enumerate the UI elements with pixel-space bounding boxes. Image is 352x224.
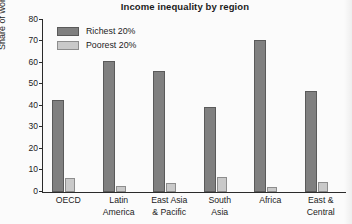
legend-label-richest: Richest 20%: [86, 27, 135, 36]
y-axis-tick-label: 40: [29, 101, 38, 110]
y-axis-tick-label: 30: [29, 122, 38, 131]
chart-title: Income inequality by region: [30, 1, 340, 12]
y-axis-title-wrap: Share of world income (%): [0, 0, 20, 200]
chart-container: Income inequality by region Share of wor…: [0, 0, 352, 224]
bar-richest[interactable]: [153, 71, 165, 192]
bar-group: [296, 20, 347, 192]
x-axis-tick-label: SouthAsia: [195, 194, 246, 224]
x-axis-tick-label: East Asia& Pacific: [144, 194, 195, 224]
y-axis-tick-label: 60: [29, 58, 38, 67]
legend-item-richest: Richest 20%: [57, 24, 167, 38]
y-axis-tick-label: 0: [33, 187, 38, 196]
legend-item-poorest: Poorest 20%: [57, 38, 167, 52]
legend-swatch-richest-icon: [57, 27, 79, 36]
bar-richest[interactable]: [103, 61, 115, 192]
chart-legend: Richest 20% Poorest 20%: [57, 24, 167, 52]
legend-label-poorest: Poorest 20%: [86, 41, 136, 50]
y-axis-title: Share of world income (%): [0, 0, 7, 50]
y-axis-tick-label: 80: [29, 15, 38, 24]
bar-poorest[interactable]: [318, 182, 328, 192]
y-axis-tick-label: 70: [29, 36, 38, 45]
bar-poorest[interactable]: [267, 187, 277, 192]
x-axis-tick-label: East &Central: [296, 194, 347, 224]
legend-swatch-poorest-icon: [57, 41, 79, 50]
y-axis-tick-label: 50: [29, 79, 38, 88]
y-axis-tick-label: 20: [29, 144, 38, 153]
x-axis-tick-label: LatinAmerica: [94, 194, 145, 224]
bar-group: [245, 20, 296, 192]
bar-richest[interactable]: [52, 100, 64, 192]
x-axis-line: [42, 192, 346, 193]
x-axis-tick-label: OECD: [43, 194, 94, 224]
x-axis-tick-label: Africa: [245, 194, 296, 224]
x-axis-labels: OECDLatinAmericaEast Asia& PacificSouthA…: [43, 194, 346, 224]
bar-richest[interactable]: [254, 40, 266, 192]
bar-richest[interactable]: [204, 107, 216, 192]
bar-richest[interactable]: [305, 91, 317, 192]
y-axis-tick-label: 10: [29, 165, 38, 174]
bar-poorest[interactable]: [166, 183, 176, 192]
bar-poorest[interactable]: [116, 186, 126, 192]
bar-poorest[interactable]: [217, 177, 227, 192]
bar-group: [195, 20, 246, 192]
bar-poorest[interactable]: [65, 178, 75, 192]
